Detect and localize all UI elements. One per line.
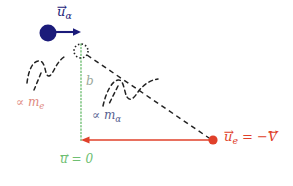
malpha-scale-brace bbox=[103, 79, 158, 106]
diagram-canvas bbox=[0, 0, 293, 186]
proportional-malpha-label: ∝ mα bbox=[92, 109, 121, 123]
me-scale-brace bbox=[27, 56, 66, 90]
vector-arrow-accent: → bbox=[268, 126, 278, 138]
electron-velocity-label: →ue = −→V bbox=[224, 130, 277, 145]
u-alpha-label: →uα bbox=[57, 5, 72, 20]
V-vector-glyph: →V bbox=[268, 130, 277, 143]
proportional-me-label: ∝ me bbox=[16, 96, 44, 110]
u-zero-equals: = 0 bbox=[68, 152, 93, 166]
vector-arrow-accent: → bbox=[60, 150, 70, 161]
proportional-symbol-me: ∝ bbox=[16, 95, 24, 109]
mass-symbol-malpha: m bbox=[104, 108, 115, 122]
u-zero-vector-glyph: →u bbox=[60, 153, 68, 165]
mass-subscript-e: e bbox=[39, 101, 44, 111]
u-alpha-vector-glyph: →u bbox=[57, 5, 65, 18]
u-e-equals-sign: = − bbox=[238, 129, 268, 144]
electron-velocity-arrow bbox=[81, 136, 210, 143]
u-e-vector-glyph: →u bbox=[224, 130, 232, 143]
impact-parameter-label: b bbox=[86, 75, 94, 87]
vector-arrow-accent: → bbox=[224, 126, 234, 138]
vector-arrow-accent: → bbox=[57, 1, 67, 13]
physics-diagram-figure: →uα ∝ me ∝ mα b →u = 0 →ue = −→V bbox=[0, 0, 293, 186]
mass-symbol-me: m bbox=[28, 95, 39, 109]
u-zero-label: →u = 0 bbox=[60, 153, 93, 165]
mass-subscript-alpha: α bbox=[115, 114, 121, 124]
alpha-particle-dot bbox=[40, 25, 57, 42]
proportional-symbol-malpha: ∝ bbox=[92, 108, 100, 122]
alpha-velocity-arrow bbox=[54, 28, 81, 35]
